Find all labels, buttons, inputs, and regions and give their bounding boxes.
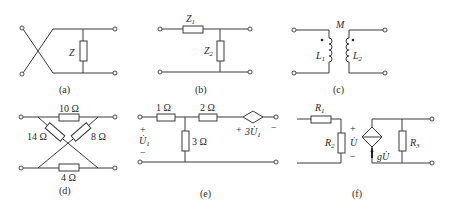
- panel-c: M L1 L2 (c): [292, 19, 387, 96]
- control-minus: −: [350, 151, 356, 162]
- port-minus: −: [140, 147, 146, 158]
- polarity-dot: [321, 39, 324, 42]
- source-minus: −: [271, 122, 277, 133]
- resistor-z1: [183, 26, 203, 33]
- resistor-z: [80, 41, 87, 61]
- resistor-10ohm: [59, 114, 79, 121]
- panel-d: 10 Ω 14 Ω 8 Ω 4 Ω (d): [19, 103, 117, 197]
- panel-b: Z1 Z2 (b): [158, 13, 252, 96]
- terminal: [158, 27, 162, 31]
- resistor-r1: [311, 116, 331, 123]
- label-4ohm: 4 Ω: [61, 172, 76, 183]
- terminal: [20, 72, 24, 76]
- resistor-14ohm: [45, 123, 65, 141]
- label-2ohm: 2 Ω: [200, 102, 215, 113]
- label-z: Z: [69, 47, 75, 58]
- terminal: [138, 115, 142, 119]
- label-r1: R1: [314, 102, 325, 115]
- control-plus: +: [350, 123, 356, 134]
- resistor-3ohm: [182, 131, 189, 151]
- source-label: 3U̇1: [244, 126, 261, 139]
- source-label-gu: gU̇: [377, 151, 390, 162]
- resistor-8ohm: [71, 123, 91, 141]
- terminal: [383, 71, 387, 75]
- terminal: [248, 70, 252, 74]
- panel-a: Z (a): [20, 26, 117, 96]
- terminal: [383, 28, 387, 32]
- inductor-l1: [329, 38, 332, 62]
- terminal: [274, 160, 278, 164]
- resistor-2ohm: [199, 114, 217, 121]
- terminal: [292, 71, 296, 75]
- caption-b: (b): [195, 84, 207, 96]
- label-8ohm: 8 Ω: [91, 131, 106, 142]
- label-10ohm: 10 Ω: [59, 103, 79, 114]
- label-l2: L2: [352, 50, 363, 63]
- terminal: [158, 70, 162, 74]
- terminal: [430, 161, 434, 165]
- terminal: [292, 28, 296, 32]
- label-z1: Z1: [186, 13, 195, 26]
- caption-d: (d): [59, 185, 71, 197]
- label-z2: Z2: [204, 45, 214, 58]
- label-l1: L1: [315, 50, 325, 63]
- caption-f: (f): [352, 188, 362, 200]
- terminal: [19, 166, 23, 170]
- terminal: [113, 166, 117, 170]
- panel-e: 1 Ω 2 Ω 3 Ω + U̇1 − + − 3U̇1 (e): [138, 102, 278, 200]
- source-plus: +: [236, 124, 242, 135]
- terminal: [19, 115, 23, 119]
- terminal: [113, 115, 117, 119]
- resistor-1ohm: [157, 114, 175, 121]
- terminal: [113, 27, 117, 31]
- resistor-r2: [338, 133, 345, 153]
- wires: [23, 29, 113, 73]
- dependent-voltage-source: [243, 111, 263, 123]
- panel-f: R1 R2 R3 + U̇ − gU̇ (f): [297, 102, 434, 200]
- label-14ohm: 14 Ω: [27, 131, 47, 142]
- terminal: [274, 115, 278, 119]
- terminal: [113, 71, 117, 75]
- label-1ohm: 1 Ω: [156, 102, 171, 113]
- resistor-r3: [399, 131, 406, 151]
- polarity-dot: [352, 39, 355, 42]
- terminal: [20, 26, 24, 30]
- label-r2: R2: [324, 137, 335, 150]
- current-arrow-icon: [371, 146, 374, 152]
- inductor-l2: [346, 38, 349, 62]
- circuit-figure: Z (a) Z1 Z2 (b) M L1: [0, 0, 454, 212]
- resistor-z2: [217, 41, 224, 61]
- caption-c: (c): [333, 84, 344, 96]
- terminal: [248, 27, 252, 31]
- label-3ohm: 3 Ω: [192, 136, 207, 147]
- port-plus: +: [140, 124, 146, 135]
- terminal: [430, 117, 434, 121]
- label-m: M: [335, 19, 345, 30]
- terminal: [138, 160, 142, 164]
- resistor-4ohm: [59, 164, 79, 171]
- control-voltage-u: U̇: [350, 137, 358, 148]
- caption-a: (a): [59, 84, 70, 96]
- label-r3: R3: [409, 137, 420, 150]
- caption-e: (e): [200, 188, 211, 200]
